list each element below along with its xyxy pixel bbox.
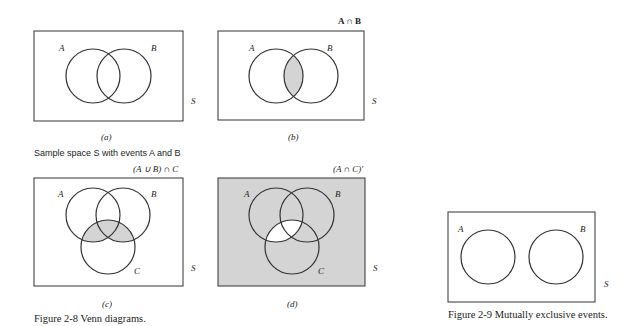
panel-c: A B C (A ∪ B) ∩ C S (c) Figure 2-8 Venn … [34, 164, 196, 324]
sample-space-rect [34, 31, 183, 121]
set-b-label: B [580, 224, 586, 234]
set-a-label: A [457, 224, 464, 234]
set-b-label: B [151, 189, 157, 199]
panel-title: (A ∪ B) ∩ C [133, 164, 179, 174]
panel-label: (d) [287, 299, 298, 309]
panel-title: (A ∩ C)' [333, 164, 364, 174]
set-a-label: A [248, 43, 255, 53]
venn-figures: A B S (a) Sample space S with events A a… [0, 0, 643, 326]
figure-2-9: A B S Figure 2-9 Mutually exclusive even… [448, 212, 609, 320]
panel-label: (c) [102, 299, 112, 309]
set-b-label: B [327, 43, 333, 53]
panel-label: (b) [288, 132, 299, 142]
panel-a: A B S (a) Sample space S with events A a… [34, 31, 196, 158]
set-c-label: C [134, 266, 141, 276]
space-label: S [372, 96, 377, 106]
space-label: S [373, 263, 378, 273]
space-label: S [604, 279, 609, 289]
set-b-label: B [335, 189, 341, 199]
set-c-label: C [318, 266, 325, 276]
panel-title: A ∩ B [338, 16, 361, 26]
figure-caption: Figure 2-9 Mutually exclusive events. [448, 309, 608, 320]
space-label: S [191, 96, 196, 106]
set-a-label: A [58, 43, 65, 53]
panel-subcaption: Sample space S with events A and B [34, 148, 181, 158]
set-a-label: A [57, 189, 64, 199]
panel-label: (a) [101, 132, 112, 142]
figure-caption: Figure 2-8 Venn diagrams. [34, 313, 146, 324]
panel-d: A B C (A ∩ C)' S (d) [218, 164, 378, 309]
set-b-label: B [151, 43, 157, 53]
space-label: S [191, 263, 196, 273]
panel-b: A B A ∩ B S (b) [218, 16, 377, 142]
set-a-label: A [243, 189, 250, 199]
sample-space-rect [448, 212, 595, 302]
